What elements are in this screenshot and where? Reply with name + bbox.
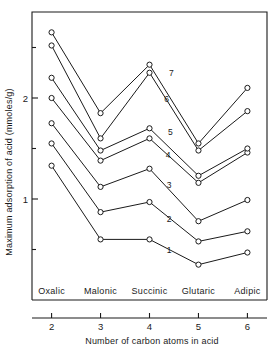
y-axis-title: Maximum adsorption of acid (mmoles/g)	[4, 88, 14, 255]
x-tick-label-5: 5	[196, 321, 201, 332]
x-axis-title: Number of carbon atoms in acid	[85, 336, 219, 346]
series-label-4: 4	[166, 150, 171, 160]
x-axis-tick-labels: 23456	[49, 321, 250, 332]
y-tick-label-1: 1	[23, 194, 28, 205]
data-point-marker	[147, 237, 152, 242]
data-point-marker	[49, 95, 54, 100]
data-point-marker	[49, 43, 54, 48]
data-point-marker	[147, 62, 152, 67]
y-axis-tick-labels: 12	[23, 93, 28, 205]
y-tick-label-2: 2	[23, 93, 28, 104]
data-point-marker	[196, 180, 201, 185]
data-point-marker	[196, 262, 201, 267]
category-label-oxalic: Oxalic	[38, 286, 65, 296]
data-point-marker	[147, 136, 152, 141]
category-label-malonic: Malonic	[84, 286, 117, 296]
data-point-marker	[196, 239, 201, 244]
x-tick-label-4: 4	[147, 321, 152, 332]
data-point-marker	[147, 199, 152, 204]
data-point-marker	[147, 166, 152, 171]
data-point-marker	[98, 136, 103, 141]
series-label-1: 1	[167, 245, 172, 255]
series-label-3: 3	[167, 180, 172, 190]
category-label-glutaric: Glutaric	[182, 286, 216, 296]
data-markers-group	[49, 30, 250, 268]
data-point-marker	[245, 85, 250, 90]
data-point-marker	[147, 126, 152, 131]
data-point-marker	[245, 250, 250, 255]
data-point-marker	[49, 121, 54, 126]
data-point-marker	[98, 158, 103, 163]
category-label-succinic: Succinic	[132, 286, 168, 296]
series-label-6: 6	[164, 94, 169, 104]
data-point-marker	[49, 75, 54, 80]
series-label-5: 5	[168, 127, 173, 137]
category-labels: OxalicMalonicSuccinicGlutaricAdipic	[38, 286, 261, 296]
data-point-marker	[196, 141, 201, 146]
data-point-marker	[49, 30, 54, 35]
data-point-marker	[98, 210, 103, 215]
data-point-marker	[98, 237, 103, 242]
data-point-marker	[98, 184, 103, 189]
category-label-adipic: Adipic	[234, 286, 261, 296]
data-point-marker	[98, 111, 103, 116]
x-tick-label-3: 3	[98, 321, 103, 332]
x-tick-label-2: 2	[49, 321, 54, 332]
chart-figure: 1234567 12 OxalicMalonicSuccinicGlutaric…	[0, 0, 274, 352]
x-tick-label-6: 6	[245, 321, 250, 332]
data-point-marker	[196, 173, 201, 178]
data-point-marker	[196, 148, 201, 153]
data-point-marker	[245, 229, 250, 234]
series-label-2: 2	[167, 214, 172, 224]
series-label-7: 7	[169, 68, 174, 78]
data-point-marker	[98, 148, 103, 153]
data-point-marker	[49, 141, 54, 146]
data-point-marker	[196, 219, 201, 224]
series-line-2	[52, 143, 248, 241]
data-point-marker	[245, 109, 250, 114]
data-point-marker	[245, 197, 250, 202]
data-point-marker	[147, 70, 152, 75]
data-point-marker	[245, 146, 250, 151]
line-chart-plot: 1234567 12 OxalicMalonicSuccinicGlutaric…	[0, 0, 274, 352]
axis-ticks	[32, 48, 267, 319]
series-line-1	[52, 166, 248, 265]
data-point-marker	[49, 163, 54, 168]
